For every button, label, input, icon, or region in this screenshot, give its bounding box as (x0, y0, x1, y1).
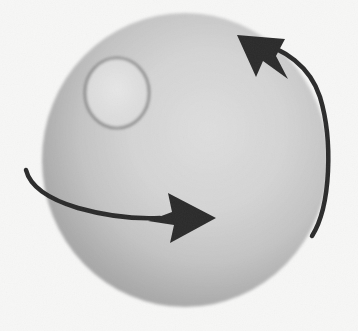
sphere-rotation-diagram (0, 0, 358, 331)
paper-grain-overlay (0, 0, 358, 331)
figure-container: Rotating sphere with surface feature and… (0, 0, 358, 331)
